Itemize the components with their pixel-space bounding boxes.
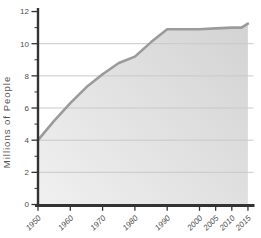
x-tick-label: 1960 bbox=[56, 213, 75, 232]
y-tick-label: 6 bbox=[25, 104, 30, 113]
y-axis-title: Millions of People bbox=[1, 76, 12, 168]
x-tick-label: 2010 bbox=[217, 213, 237, 233]
y-tick-label: 0 bbox=[25, 200, 30, 209]
x-tick-label: 2015 bbox=[233, 213, 253, 233]
x-tick-label: 2005 bbox=[201, 213, 221, 233]
chart-layers: 0246810121950196019701980199020002005201… bbox=[20, 7, 254, 233]
y-tick-label: 12 bbox=[20, 7, 29, 16]
x-tick-label: 1970 bbox=[89, 213, 108, 232]
x-tick-label: 1950 bbox=[24, 213, 43, 232]
y-tick-label: 10 bbox=[20, 40, 29, 49]
y-tick-label: 2 bbox=[25, 168, 30, 177]
chart-svg: 0246810121950196019701980199020002005201… bbox=[0, 0, 261, 238]
x-tick-label: 1980 bbox=[121, 213, 140, 232]
y-tick-label: 4 bbox=[25, 136, 30, 145]
x-tick-label: 1990 bbox=[153, 213, 172, 232]
y-tick-label: 8 bbox=[25, 72, 30, 81]
population-area-chart: 0246810121950196019701980199020002005201… bbox=[0, 0, 261, 238]
x-tick-label: 2000 bbox=[185, 213, 205, 233]
